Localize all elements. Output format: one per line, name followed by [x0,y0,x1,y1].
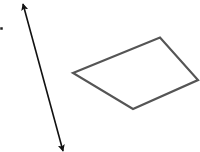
double-headed-arrow [23,4,63,151]
point-dot [0,27,3,30]
parallelogram-shape [73,38,198,110]
diagram-canvas [0,0,200,152]
